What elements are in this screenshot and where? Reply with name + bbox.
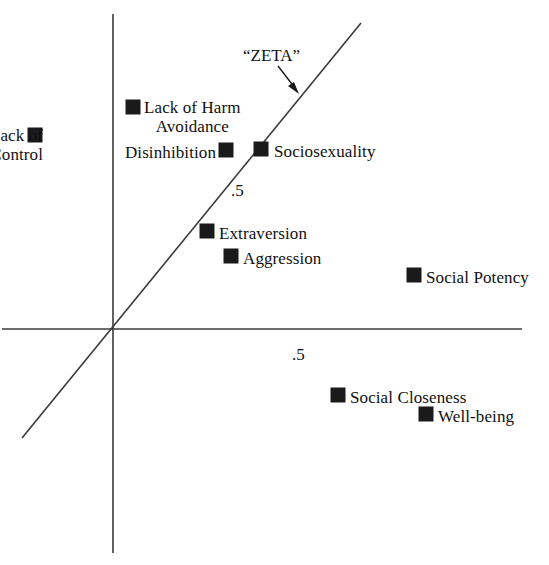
data-point-marker-disinhibition[interactable] <box>219 143 233 157</box>
data-point-label-sociosexuality: Sociosexuality <box>274 142 376 161</box>
data-point-marker-well-being[interactable] <box>419 407 433 421</box>
data-point-marker-extraversion[interactable] <box>200 224 214 238</box>
data-point-label-social-potency: Social Potency <box>426 268 529 287</box>
data-point-label-extraversion: Extraversion <box>219 224 307 243</box>
data-point-label-disinhibition: Disinhibition <box>125 143 216 162</box>
data-point-marker-aggression[interactable] <box>224 249 238 263</box>
x-axis-tick-label: .5 <box>292 346 305 364</box>
scatter-plot-figure: “ZETA” .5 .5 Lack of ControlLack of Harm… <box>0 0 549 565</box>
y-axis-tick-label: .5 <box>231 182 244 200</box>
data-point-marker-sociosexuality[interactable] <box>254 142 268 156</box>
data-point-label-lack-of-control: Lack of Control <box>0 126 43 164</box>
data-point-marker-lack-of-harm-avoidance[interactable] <box>126 100 140 114</box>
zeta-diagonal-line <box>22 23 361 438</box>
zeta-arrow-icon <box>278 66 299 94</box>
data-point-label-well-being: Well-being <box>438 407 514 426</box>
data-point-label-aggression: Aggression <box>243 249 321 268</box>
zeta-annotation-label: “ZETA” <box>243 46 300 65</box>
data-point-label-social-closeness: Social Closeness <box>350 388 466 407</box>
data-point-marker-social-potency[interactable] <box>407 268 421 282</box>
data-point-marker-social-closeness[interactable] <box>331 388 345 402</box>
data-point-label-lack-of-harm-avoidance: Lack of Harm Avoidance <box>144 98 241 136</box>
